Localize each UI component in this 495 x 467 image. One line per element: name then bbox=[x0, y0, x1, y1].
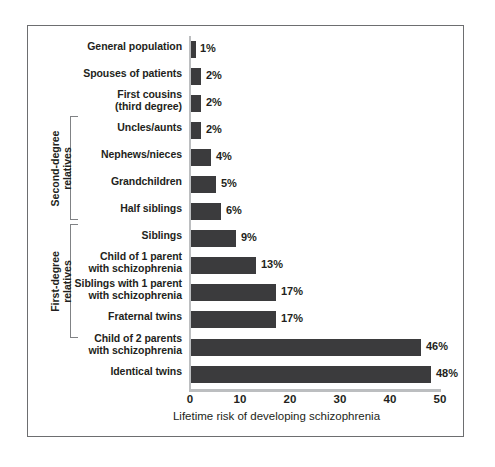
bar-row: Half siblings 6% bbox=[0, 203, 495, 227]
category-label-line2: with schizophrenia bbox=[88, 289, 182, 301]
figure: Second-degree relatives First-degree rel… bbox=[0, 0, 495, 467]
bar-value-label: 46% bbox=[426, 340, 448, 352]
bar-value-label: 17% bbox=[281, 312, 303, 324]
bar-row: First cousins (third degree) 2% bbox=[0, 95, 495, 119]
category-label: Fraternal twins bbox=[22, 311, 182, 323]
category-label-line2: with schizophrenia bbox=[88, 262, 182, 274]
category-label: Child of 1 parent with schizophrenia bbox=[22, 251, 182, 274]
x-tick-label: 30 bbox=[320, 393, 360, 405]
category-label: Child of 2 parents with schizophrenia bbox=[22, 333, 182, 356]
category-label-line1: Siblings bbox=[142, 229, 182, 241]
x-tick-label: 50 bbox=[420, 393, 460, 405]
category-label-line2: (third degree) bbox=[115, 100, 182, 112]
bar-row: Nephews/nieces 4% bbox=[0, 149, 495, 173]
x-tick-label: 10 bbox=[220, 393, 260, 405]
bar-value-label: 2% bbox=[206, 123, 222, 135]
category-label-line1: Half siblings bbox=[120, 202, 182, 214]
bar bbox=[191, 230, 236, 247]
category-label-line1: Grandchildren bbox=[111, 175, 182, 187]
bar bbox=[191, 176, 216, 193]
category-label-line1: Child of 2 parents bbox=[94, 332, 182, 344]
bar bbox=[191, 41, 196, 58]
bar-row: Grandchildren 5% bbox=[0, 176, 495, 200]
category-label-line1: Uncles/aunts bbox=[117, 121, 182, 133]
bar-value-label: 2% bbox=[206, 96, 222, 108]
category-label-line1: General population bbox=[87, 40, 182, 52]
bar-value-label: 2% bbox=[206, 69, 222, 81]
bar bbox=[191, 311, 276, 328]
bar-value-label: 4% bbox=[216, 150, 232, 162]
category-label: First cousins (third degree) bbox=[22, 89, 182, 112]
bar-value-label: 13% bbox=[261, 258, 283, 270]
bar-value-label: 9% bbox=[241, 231, 257, 243]
bar bbox=[191, 284, 276, 301]
bar-row: Uncles/aunts 2% bbox=[0, 122, 495, 146]
category-label-line1: First cousins bbox=[117, 88, 182, 100]
bar-row: General population 1% bbox=[0, 41, 495, 65]
bar bbox=[191, 366, 431, 383]
bar-chart-plot: Second-degree relatives First-degree rel… bbox=[0, 0, 495, 467]
x-tick-label: 40 bbox=[370, 393, 410, 405]
category-label: Spouses of patients bbox=[22, 68, 182, 80]
bar bbox=[191, 257, 256, 274]
bar-value-label: 5% bbox=[221, 177, 237, 189]
category-label-line1: Siblings with 1 parent bbox=[75, 277, 182, 289]
bar bbox=[191, 122, 201, 139]
bar-row: Fraternal twins 17% bbox=[0, 311, 495, 335]
bar-value-label: 1% bbox=[200, 42, 216, 54]
category-label-line1: Spouses of patients bbox=[83, 67, 182, 79]
bar-value-label: 6% bbox=[226, 204, 242, 216]
category-label-line1: Fraternal twins bbox=[108, 310, 182, 322]
category-label-line1: Child of 1 parent bbox=[100, 250, 182, 262]
bar bbox=[191, 95, 201, 112]
category-label: General population bbox=[22, 41, 182, 53]
x-axis-title: Lifetime risk of developing schizophreni… bbox=[0, 410, 495, 422]
x-tick-label: 0 bbox=[170, 393, 210, 405]
bar-row: Identical twins 48% bbox=[0, 366, 495, 390]
category-label: Grandchildren bbox=[22, 176, 182, 188]
category-label-line1: Nephews/nieces bbox=[101, 148, 182, 160]
x-tick-label: 20 bbox=[270, 393, 310, 405]
bar bbox=[191, 68, 201, 85]
bar-value-label: 48% bbox=[436, 367, 458, 379]
bar bbox=[191, 203, 221, 220]
bar-value-label: 17% bbox=[281, 285, 303, 297]
category-label-line2: with schizophrenia bbox=[88, 344, 182, 356]
bar bbox=[191, 149, 211, 166]
category-label: Identical twins bbox=[22, 366, 182, 378]
category-label: Siblings with 1 parent with schizophreni… bbox=[22, 278, 182, 301]
bar bbox=[191, 339, 421, 356]
category-label: Uncles/aunts bbox=[22, 122, 182, 134]
category-label: Half siblings bbox=[22, 203, 182, 215]
bar-row: Child of 2 parents with schizophrenia 46… bbox=[0, 339, 495, 363]
category-label-line1: Identical twins bbox=[110, 365, 182, 377]
category-label: Siblings bbox=[22, 230, 182, 242]
bar-row: Siblings with 1 parent with schizophreni… bbox=[0, 284, 495, 308]
category-label: Nephews/nieces bbox=[22, 149, 182, 161]
